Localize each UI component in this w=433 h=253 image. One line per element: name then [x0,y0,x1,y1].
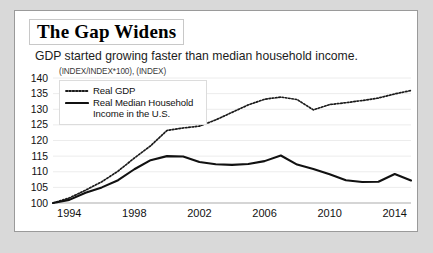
x-axis-ticks: 199419982002200620102014 [57,207,407,219]
svg-text:100: 100 [31,198,49,209]
solid-line-icon [65,97,89,108]
svg-text:140: 140 [31,73,49,84]
legend-item-real-gdp: Real GDP [65,85,201,96]
svg-text:130: 130 [31,104,49,115]
legend-label-median-income: Real Median Household Income in the U.S. [93,97,201,119]
svg-text:1994: 1994 [57,207,81,219]
chart-legend: Real GDP Real Median Household Income in… [59,80,207,125]
svg-text:120: 120 [31,135,49,146]
legend-label-real-gdp: Real GDP [93,85,135,96]
svg-text:105: 105 [31,182,49,193]
legend-item-median-income: Real Median Household Income in the U.S. [65,97,201,119]
y-axis-ticks: 100105110115120125130135140 [31,73,49,209]
svg-text:125: 125 [31,119,49,130]
svg-text:2006: 2006 [252,207,276,219]
svg-text:1998: 1998 [122,207,146,219]
svg-text:2010: 2010 [317,207,341,219]
svg-text:110: 110 [31,166,48,177]
chart-card: The Gap Widens GDP started growing faste… [14,10,418,232]
svg-text:115: 115 [31,151,48,162]
svg-text:2002: 2002 [187,207,211,219]
svg-text:2014: 2014 [382,207,406,219]
dotted-line-icon [65,85,89,96]
svg-text:135: 135 [31,88,49,99]
